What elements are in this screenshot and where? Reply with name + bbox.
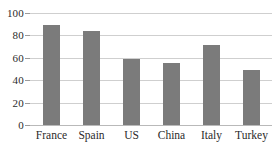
bar-us <box>123 59 140 125</box>
y-tick-label-40: 40 <box>0 75 24 86</box>
bar-china <box>163 63 180 125</box>
y-tick-label-80: 80 <box>0 30 24 41</box>
x-tick-label-turkey: Turkey <box>235 128 268 143</box>
y-tick-mark-0 <box>25 125 30 126</box>
bar-chart: 100 80 60 40 20 0 France Spain US China … <box>0 0 279 153</box>
x-tick-label-china: China <box>158 128 185 143</box>
x-tick-label-france: France <box>36 128 67 143</box>
x-axis-line <box>30 125 272 126</box>
y-tick-label-100: 100 <box>0 8 24 19</box>
x-axis: France Spain US China Italy Turkey <box>30 128 272 150</box>
y-tick-label-60: 60 <box>0 53 24 64</box>
bar-turkey <box>243 70 260 125</box>
y-axis: 100 80 60 40 20 0 <box>0 0 24 153</box>
x-tick-label-italy: Italy <box>201 128 222 143</box>
bar-italy <box>203 45 220 125</box>
y-tick-label-0: 0 <box>0 120 24 131</box>
bar-spain <box>83 31 100 125</box>
bar-france <box>43 25 60 125</box>
bars-layer <box>30 13 272 125</box>
x-tick-label-us: US <box>124 128 139 143</box>
y-tick-label-20: 20 <box>0 98 24 109</box>
x-tick-label-spain: Spain <box>78 128 104 143</box>
